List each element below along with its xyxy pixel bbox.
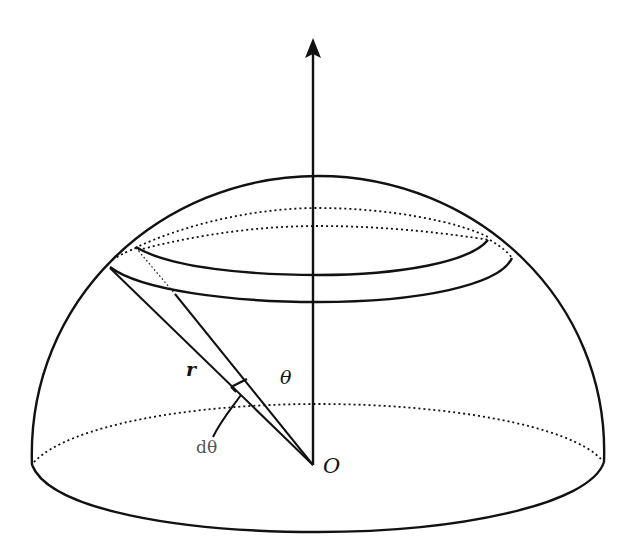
theta-label: θ xyxy=(280,366,291,388)
base-ellipse-back xyxy=(34,404,602,462)
lower-ring-front xyxy=(110,258,512,302)
dtheta-label: dθ xyxy=(196,437,217,457)
hemisphere-dome-outline xyxy=(32,176,604,465)
hemisphere-diagram xyxy=(0,0,630,547)
radius-label: r xyxy=(186,358,196,380)
dtheta-leader xyxy=(213,395,241,437)
lower-ring-back-right xyxy=(490,240,512,258)
base-ellipse-front xyxy=(32,462,604,532)
dtheta-tick xyxy=(231,379,247,387)
origin-label: O xyxy=(323,454,340,478)
